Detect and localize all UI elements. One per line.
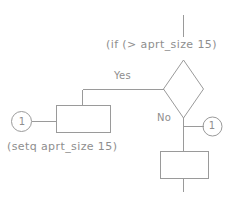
no-process-box	[161, 152, 209, 179]
setq-expression-label: (setq aprt_size 15)	[7, 141, 117, 152]
connector-left-number: 1	[13, 117, 31, 127]
yes-process-box	[57, 106, 111, 133]
yes-branch-label: Yes	[114, 71, 131, 81]
decision-diamond	[164, 60, 204, 118]
no-branch-label: No	[157, 113, 171, 123]
if-expression-label: (if (> aprt_size 15)	[106, 39, 217, 50]
connector-right-number: 1	[203, 121, 221, 131]
flowchart-diagram: (if (> aprt_size 15) (setq aprt_size 15)…	[0, 0, 236, 199]
flowchart-canvas	[0, 0, 236, 199]
